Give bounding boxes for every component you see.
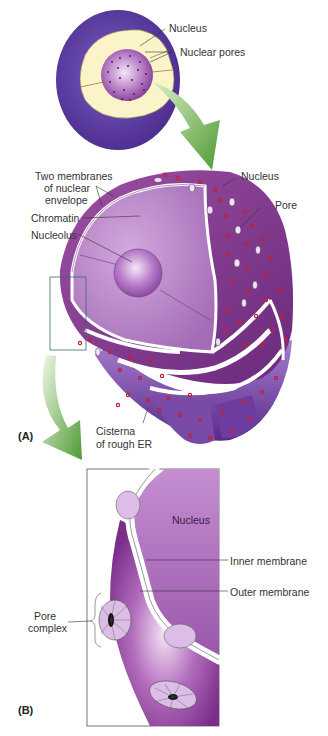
label-chromatin: Chromatin — [31, 212, 79, 224]
panel-label-b: (B) — [18, 704, 33, 716]
label-cisterna-2: of rough ER — [96, 438, 152, 450]
pore-complex-icon — [99, 600, 131, 640]
label-two-membranes-3: envelope — [45, 194, 88, 206]
panel-b-detail — [87, 469, 219, 726]
label-two-membranes-2: of nuclear — [44, 182, 90, 194]
label-nuclear-pores: Nuclear pores — [180, 46, 245, 58]
label-inner-membrane: Inner membrane — [230, 555, 307, 567]
zoom-arrow-icon — [42, 355, 82, 460]
label-outer-membrane: Outer membrane — [230, 586, 309, 598]
panel-label-a: (A) — [18, 430, 33, 442]
label-nucleus-a: Nucleus — [241, 170, 279, 182]
label-nucleus-overview: Nucleus — [169, 22, 207, 34]
label-nucleus-b: Nucleus — [172, 514, 210, 526]
label-nucleolus: Nucleolus — [31, 229, 77, 241]
label-pore-complex-1: Pore — [34, 610, 56, 622]
label-cisterna-1: Cisterna — [96, 425, 135, 437]
label-two-membranes-1: Two membranes — [35, 170, 113, 182]
label-pore-complex-2: complex — [28, 622, 67, 634]
overview-cell — [56, 10, 180, 150]
label-pore: Pore — [275, 199, 297, 211]
